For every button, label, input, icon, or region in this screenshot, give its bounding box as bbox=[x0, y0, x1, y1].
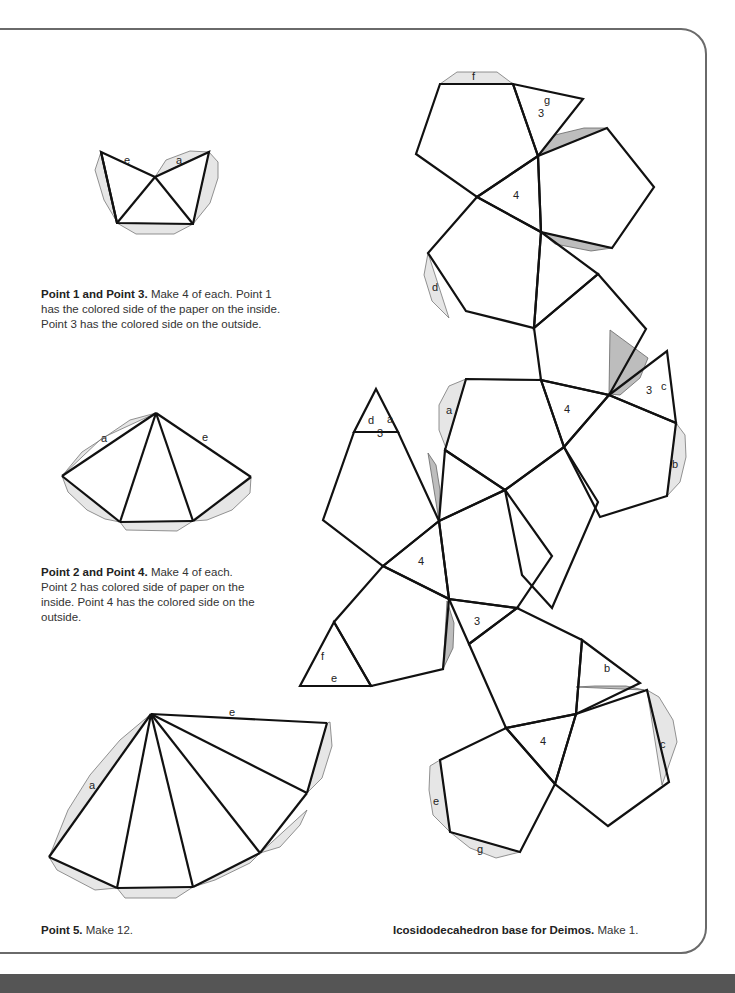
icosidodecahedron-net: f g 3 4 d a 4 3 c b d a 3 4 f e 3 b 4 c … bbox=[300, 70, 686, 858]
face-number: 3 bbox=[377, 427, 383, 439]
caption-title: Point 2 and Point 4. bbox=[41, 566, 148, 578]
face-number: 4 bbox=[564, 403, 570, 415]
caption-point24: Point 2 and Point 4. Make 4 of each. Poi… bbox=[41, 565, 256, 625]
edge-label: e bbox=[124, 154, 130, 166]
edge-label: b bbox=[672, 458, 678, 470]
edge-label: c bbox=[660, 738, 666, 750]
edge-label: f bbox=[321, 650, 325, 662]
edge-label: a bbox=[101, 432, 108, 444]
face-number: 4 bbox=[540, 735, 546, 747]
papercraft-templates: .t { fill:#e6e6e6; stroke:#777; stroke-w… bbox=[0, 0, 735, 993]
caption-title: Point 1 and Point 3. bbox=[41, 288, 148, 300]
caption-title: Icosidodecahedron base for Deimos. bbox=[393, 924, 594, 936]
edge-label: d bbox=[432, 281, 438, 293]
edge-label: a bbox=[446, 404, 453, 416]
edge-label: d bbox=[368, 414, 374, 426]
point5-template: e a bbox=[49, 706, 332, 898]
edge-label: e bbox=[433, 795, 439, 807]
point13-template: e a bbox=[95, 151, 218, 234]
edge-label: e bbox=[202, 431, 208, 443]
caption-text: Make 1. bbox=[594, 924, 638, 936]
point24-template: a e bbox=[62, 413, 251, 531]
caption-base: Icosidodecahedron base for Deimos. Make … bbox=[393, 923, 693, 938]
face-number: 4 bbox=[418, 555, 424, 567]
caption-title: Point 5. bbox=[41, 924, 83, 936]
edge-label: e bbox=[229, 706, 235, 718]
face-number: 3 bbox=[538, 107, 544, 119]
edge-label: a bbox=[176, 154, 183, 166]
edge-label: c bbox=[661, 380, 667, 392]
edge-label: g bbox=[544, 94, 550, 106]
caption-point5: Point 5. Make 12. bbox=[41, 923, 261, 938]
face-number: 3 bbox=[646, 384, 652, 396]
edge-label: g bbox=[477, 843, 483, 855]
caption-text: Make 12. bbox=[83, 924, 134, 936]
edge-label: a bbox=[387, 413, 394, 425]
face-number: 3 bbox=[474, 615, 480, 627]
edge-label: e bbox=[331, 672, 337, 684]
caption-point13: Point 1 and Point 3. Make 4 of each. Poi… bbox=[41, 287, 281, 332]
edge-label: a bbox=[89, 779, 96, 791]
edge-label: b bbox=[604, 662, 610, 674]
face-number: 4 bbox=[513, 189, 519, 201]
